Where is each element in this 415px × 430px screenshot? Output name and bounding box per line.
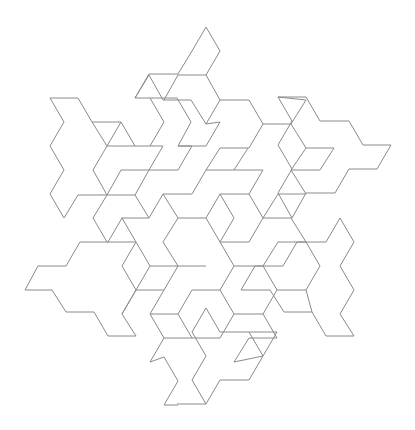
tessellation-figure [0, 0, 415, 430]
